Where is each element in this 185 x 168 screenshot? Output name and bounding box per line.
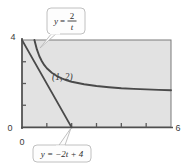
callout-curve-lhs: y — [53, 16, 58, 26]
y-axis-origin-label: 0 — [7, 123, 12, 133]
graph-svg: 4 0 0 6 (1, 2) y = 2 t y = — [0, 0, 185, 168]
math-figure-container: 4 0 0 6 (1, 2) y = 2 t y = — [0, 0, 185, 168]
callout-line-equation: y = −2t + 4 — [33, 128, 91, 162]
callout-curve-tail-cover — [50, 30, 60, 35]
plot-area-background — [22, 40, 171, 127]
callout-curve-numerator: 2 — [70, 11, 75, 21]
x-axis-origin-label: 0 — [19, 137, 24, 147]
y-axis-max-label: 4 — [10, 32, 15, 42]
intersection-point-label: (1, 2) — [52, 72, 73, 83]
callout-curve-equals: = — [60, 16, 65, 26]
callout-line-text: y = −2t + 4 — [40, 149, 84, 159]
x-axis-max-label: 6 — [175, 123, 180, 133]
